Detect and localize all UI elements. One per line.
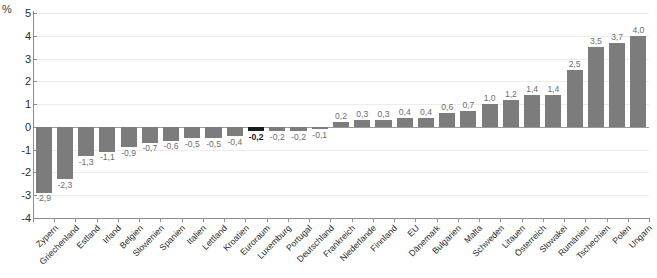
x-axis-tick-mark (267, 218, 268, 222)
x-axis-tick-mark (522, 218, 523, 222)
bar-slot[interactable]: 4,0 (628, 13, 649, 218)
bar[interactable] (524, 95, 540, 127)
y-axis-tick-label: -2 (21, 166, 31, 178)
x-axis-tick-mark (500, 218, 501, 222)
x-axis-tick-mark (97, 218, 98, 222)
bar[interactable] (354, 120, 370, 127)
bar[interactable] (248, 127, 264, 132)
bar[interactable] (269, 127, 285, 132)
x-axis-line (33, 218, 650, 219)
x-axis-category-label: Ungarn (627, 223, 654, 250)
bar-slot[interactable]: -0,2 (288, 13, 309, 218)
x-axis-tick-mark (415, 218, 416, 222)
bar[interactable] (184, 127, 200, 138)
bar-slot[interactable]: 0,4 (415, 13, 436, 218)
x-axis-tick-mark (33, 218, 34, 222)
x-axis-tick-mark (479, 218, 480, 222)
x-axis-tick-mark (203, 218, 204, 222)
x-axis-tick-mark (139, 218, 140, 222)
bar[interactable] (397, 118, 413, 127)
x-axis-tick-mark (54, 218, 55, 222)
bar-slot[interactable]: 3,5 (585, 13, 606, 218)
x-axis-tick-mark (352, 218, 353, 222)
bar-slot[interactable]: -0,2 (245, 13, 266, 218)
bar-slot[interactable]: -1,1 (97, 13, 118, 218)
y-axis-tick-label: -4 (21, 212, 31, 224)
bar-slot[interactable]: -0,9 (118, 13, 139, 218)
bar[interactable] (439, 113, 455, 127)
y-axis-tick-label: 4 (25, 30, 31, 42)
bar-slot[interactable]: 1,0 (479, 13, 500, 218)
bar[interactable] (567, 70, 583, 127)
bar[interactable] (57, 127, 73, 179)
bar[interactable] (545, 95, 561, 127)
y-axis-tick-label: -1 (21, 144, 31, 156)
x-axis-tick-mark (75, 218, 76, 222)
y-axis-tick-label: 5 (25, 7, 31, 19)
bar[interactable] (333, 122, 349, 127)
bar[interactable] (588, 47, 604, 127)
x-axis-tick-mark (628, 218, 629, 222)
x-axis-tick-mark (118, 218, 119, 222)
bar-series: -2,9-2,3-1,3-1,1-0,9-0,7-0,6-0,5-0,5-0,4… (33, 13, 649, 218)
bar-slot[interactable]: 3,7 (607, 13, 628, 218)
bar-slot[interactable]: -0,7 (139, 13, 160, 218)
y-axis-tick-label: 2 (25, 75, 31, 87)
bar[interactable] (630, 36, 646, 127)
bar[interactable] (375, 120, 391, 127)
x-axis-tick-mark (182, 218, 183, 222)
x-axis-tick-mark (458, 218, 459, 222)
x-axis-tick-mark (330, 218, 331, 222)
bar-value-label: 4,0 (619, 25, 657, 35)
y-axis-tick-label: 0 (25, 121, 31, 133)
x-axis-tick-mark (309, 218, 310, 222)
x-axis-tick-mark (224, 218, 225, 222)
y-axis-tick-label: 3 (25, 53, 31, 65)
y-axis-tick-label: 1 (25, 98, 31, 110)
x-axis-tick-mark (245, 218, 246, 222)
category-label-text: EU (405, 223, 421, 239)
bar-slot[interactable]: -0,6 (160, 13, 181, 218)
bar-slot[interactable]: 0,7 (458, 13, 479, 218)
x-axis-tick-mark (288, 218, 289, 222)
bar-slot[interactable]: 1,2 (500, 13, 521, 218)
y-axis-tick-labels: 543210-1-2-3-4 (0, 13, 31, 218)
x-axis-tick-mark (564, 218, 565, 222)
bar-slot[interactable]: -2,3 (54, 13, 75, 218)
x-axis-tick-mark (543, 218, 544, 222)
bar-slot[interactable]: -1,3 (75, 13, 96, 218)
bar[interactable] (482, 104, 498, 127)
bar-slot[interactable]: -0,5 (203, 13, 224, 218)
bar[interactable] (503, 100, 519, 127)
bar-slot[interactable]: 0,6 (437, 13, 458, 218)
x-axis-tick-mark (437, 218, 438, 222)
bar[interactable] (460, 111, 476, 127)
x-axis-tick-mark (394, 218, 395, 222)
bar[interactable] (609, 43, 625, 127)
x-axis-tick-mark (373, 218, 374, 222)
x-axis-category-label: EU (405, 223, 421, 239)
bar-slot[interactable]: -0,4 (224, 13, 245, 218)
x-axis-tick-mark (160, 218, 161, 222)
bar-slot[interactable]: -0,5 (182, 13, 203, 218)
category-label-text: Ungarn (627, 223, 654, 250)
bar-slot[interactable]: -0,2 (267, 13, 288, 218)
x-axis-tick-mark (649, 218, 650, 222)
bar[interactable] (418, 118, 434, 127)
bar-slot[interactable]: 1,4 (522, 13, 543, 218)
x-axis-tick-mark (607, 218, 608, 222)
bar-slot[interactable]: 1,4 (543, 13, 564, 218)
x-axis-tick-mark (585, 218, 586, 222)
x-axis-category-labels: ZypernGriechenlandEstlandIrlandBelgienSl… (33, 223, 649, 278)
